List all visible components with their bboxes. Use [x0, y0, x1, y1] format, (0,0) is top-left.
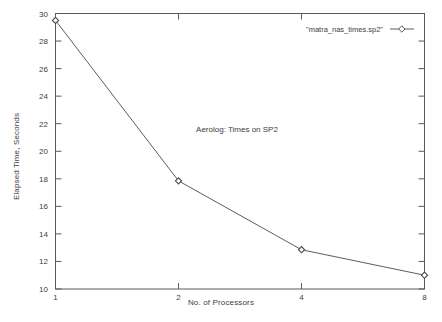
y-tick-label: 18: [39, 175, 48, 184]
plot-area-border: [56, 14, 425, 290]
y-tick-label: 16: [39, 202, 48, 211]
legend-entry-label: "matra_nas_times.sp2": [306, 25, 383, 34]
y-tick-label: 28: [39, 37, 48, 46]
legend-diamond-marker-icon: [399, 26, 405, 32]
y-tick-label: 12: [39, 257, 48, 266]
data-point-diamond-marker-icon: [421, 272, 427, 278]
data-point-diamond-marker-icon: [298, 247, 304, 253]
y-tick-label: 26: [39, 65, 48, 74]
line-chart: 10 12 14 16 18 20 22 24 26 28 30 1 2 4 8…: [0, 0, 442, 322]
data-series-matra-nas-times-sp2: [52, 17, 427, 278]
y-axis-tick-marks-right: [419, 14, 425, 290]
y-tick-label: 20: [39, 147, 48, 156]
x-axis-tick-marks: [56, 14, 425, 290]
y-tick-label: 10: [39, 285, 48, 294]
y-tick-label: 14: [39, 230, 48, 239]
series-line: [56, 20, 425, 275]
y-axis-tick-marks: [56, 14, 62, 290]
chart-container: 10 12 14 16 18 20 22 24 26 28 30 1 2 4 8…: [0, 0, 442, 322]
y-axis-title: Elapsed Time, Seconds: [12, 97, 21, 217]
y-tick-label: 30: [39, 10, 48, 19]
y-axis-tick-labels: 10 12 14 16 18 20 22 24 26 28 30: [39, 10, 48, 295]
x-axis-title: No. of Processors: [0, 298, 442, 307]
legend: "matra_nas_times.sp2": [306, 25, 414, 34]
y-tick-label: 22: [39, 120, 48, 129]
plot-annotation-label: Aerolog: Times on SP2: [196, 125, 278, 134]
y-tick-label: 24: [39, 92, 48, 101]
